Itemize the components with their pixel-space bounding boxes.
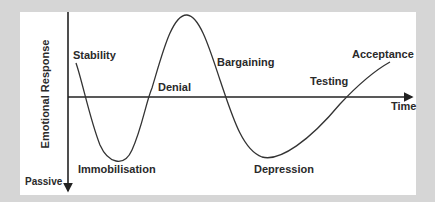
stage-label-denial: Denial bbox=[158, 81, 191, 93]
emotional-response-curve bbox=[76, 15, 390, 161]
y-axis-label: Emotional Response bbox=[39, 39, 51, 149]
x-axis-label: Time bbox=[391, 100, 416, 112]
stage-label-immobilisation: Immobilisation bbox=[78, 163, 156, 175]
stage-label-depression: Depression bbox=[254, 163, 314, 175]
stage-label-stability: Stability bbox=[73, 49, 116, 61]
stage-label-bargaining: Bargaining bbox=[217, 56, 274, 68]
stage-label-acceptance: Acceptance bbox=[352, 48, 414, 60]
stage-label-testing: Testing bbox=[310, 75, 348, 87]
change-curve-diagram bbox=[0, 0, 435, 202]
y-axis-bottom-label: Passive bbox=[25, 176, 62, 187]
